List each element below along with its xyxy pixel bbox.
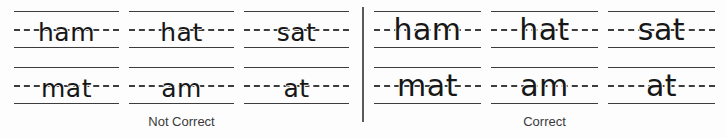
handwritten-word: hat (125, 20, 238, 45)
handwriting-guide-cell: ham (10, 8, 123, 52)
word-row: mat am at (363, 64, 726, 112)
guide-line-baseline (129, 47, 234, 48)
handwritten-word: ham (370, 15, 485, 45)
handwritten-word: mat (10, 76, 123, 101)
guide-line-top (14, 11, 119, 12)
guide-line-baseline (129, 103, 234, 104)
guide-line-baseline (374, 103, 481, 104)
handwritten-word: at (604, 71, 719, 101)
handwriting-worksheet: ham hat sat mat (0, 0, 726, 138)
guide-line-baseline (14, 103, 119, 104)
guide-line-baseline (244, 47, 349, 48)
guide-line-baseline (374, 47, 481, 48)
panel-caption: Correct (363, 114, 726, 129)
handwriting-guide-cell: hat (487, 8, 602, 52)
panel-not-correct: ham hat sat mat (0, 0, 363, 138)
handwritten-word: mat (370, 71, 485, 101)
handwriting-guide-cell: mat (10, 64, 123, 108)
word-row: mat am at (0, 64, 363, 112)
handwritten-word: sat (240, 20, 353, 45)
panel-divider (362, 7, 364, 122)
handwriting-guide-cell: at (604, 64, 719, 108)
handwriting-guide-cell: am (125, 64, 238, 108)
handwritten-word: sat (604, 15, 719, 45)
handwriting-guide-cell: ham (370, 8, 485, 52)
handwritten-word: hat (487, 15, 602, 45)
handwriting-guide-cell: sat (604, 8, 719, 52)
guide-line-top (244, 67, 349, 68)
guide-line-baseline (491, 103, 598, 104)
handwritten-word: at (240, 76, 353, 101)
handwriting-guide-cell: am (487, 64, 602, 108)
guide-line-baseline (608, 103, 715, 104)
guide-line-baseline (244, 103, 349, 104)
handwriting-guide-cell: mat (370, 64, 485, 108)
handwriting-guide-cell: hat (125, 8, 238, 52)
guide-line-top (244, 11, 349, 12)
handwritten-word: am (487, 71, 602, 101)
handwritten-word: ham (10, 20, 123, 45)
guide-line-baseline (14, 47, 119, 48)
guide-line-baseline (491, 47, 598, 48)
panel-caption: Not Correct (0, 114, 363, 129)
guide-line-baseline (608, 47, 715, 48)
word-row: ham hat sat (363, 8, 726, 56)
guide-line-top (129, 11, 234, 12)
guide-line-top (129, 67, 234, 68)
word-row: ham hat sat (0, 8, 363, 56)
handwritten-word: am (125, 76, 238, 101)
handwriting-guide-cell: sat (240, 8, 353, 52)
guide-line-top (14, 67, 119, 68)
panel-correct: ham hat sat mat (363, 0, 726, 138)
handwriting-guide-cell: at (240, 64, 353, 108)
